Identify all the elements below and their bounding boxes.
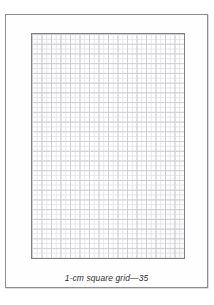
grid-lines — [32, 34, 184, 258]
page-sheet-border: 1-cm square grid—35 — [5, 14, 208, 288]
worksheet-page: 1-cm square grid—35 — [0, 0, 214, 305]
grid-caption: 1-cm square grid—35 — [6, 273, 207, 283]
graph-paper-grid — [31, 33, 185, 259]
